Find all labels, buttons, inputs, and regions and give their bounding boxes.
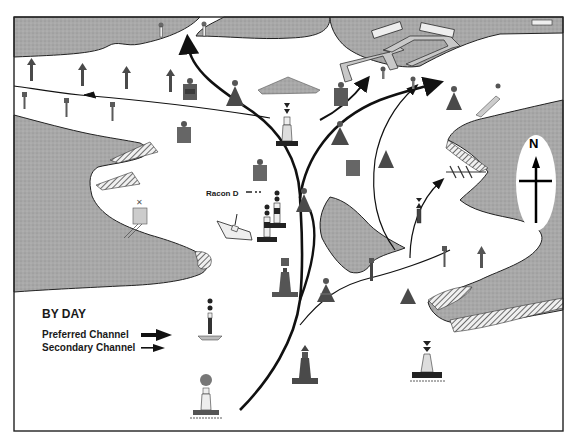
cone-mark-icon bbox=[400, 288, 416, 304]
legend-heading: BY DAY bbox=[42, 307, 86, 321]
harbour-building-3 bbox=[532, 20, 552, 25]
island-middle bbox=[320, 197, 405, 273]
lighthouse-dark-icon bbox=[292, 345, 318, 384]
racon-label: Racon D bbox=[206, 189, 238, 198]
legend-preferred-arrow bbox=[141, 329, 172, 341]
wreck-icon bbox=[217, 214, 252, 240]
cone-buoy-light-icon bbox=[296, 188, 312, 212]
beacon-arrow-icon bbox=[477, 246, 486, 268]
nautical-channel-diagram: ✕ bbox=[0, 0, 576, 442]
secondary-channel-line-east bbox=[374, 88, 414, 250]
pier-light-icon bbox=[381, 67, 386, 80]
legend-preferred-label: Preferred Channel bbox=[42, 329, 129, 340]
cardinal-beacon-icon bbox=[416, 198, 422, 223]
jetty-light-icon bbox=[476, 84, 501, 118]
secondary-channel-line-south bbox=[300, 250, 450, 325]
legend-isolated-danger-beacon-icon bbox=[198, 299, 222, 341]
cone-mark-icon bbox=[378, 150, 394, 168]
north-label: N bbox=[529, 136, 538, 151]
secondary-channel-line-east-2 bbox=[410, 182, 440, 258]
beacon-can-icon bbox=[442, 246, 447, 267]
can-buoy-light-icon bbox=[334, 82, 348, 106]
legend-secondary-arrow bbox=[141, 344, 165, 352]
cardinal-south-buoy-icon bbox=[410, 341, 446, 381]
cone-buoy-light-icon bbox=[446, 86, 462, 110]
pier-light-icon bbox=[411, 77, 416, 90]
cone-buoy-light-icon bbox=[317, 278, 335, 302]
lighthouse-topmark-square-icon bbox=[272, 258, 298, 297]
can-mark-icon bbox=[346, 160, 360, 176]
legend-secondary-label: Secondary Channel bbox=[42, 342, 135, 353]
cone-buoy-light-icon bbox=[331, 121, 349, 145]
preferred-channel-branch bbox=[300, 84, 434, 198]
safe-water-mark-icon bbox=[190, 374, 222, 418]
svg-text:✕: ✕ bbox=[136, 198, 143, 207]
